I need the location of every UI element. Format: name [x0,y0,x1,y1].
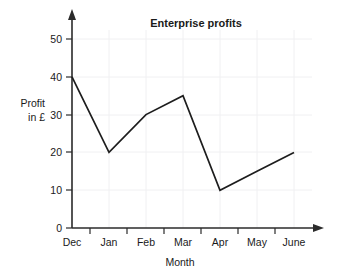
x-axis [72,224,324,232]
x-tick-label-mar: Mar [174,236,193,248]
y-axis [68,9,76,228]
x-axis-arrow-icon [313,224,324,232]
x-tick-label-may: May [247,236,268,248]
x-tick-label-feb: Feb [137,236,155,248]
x-tick-label-dec: Dec [63,236,82,248]
x-tick-label-june: June [283,236,306,248]
y-axis-title: Profit in £ [20,97,45,123]
x-axis-ticks [90,228,275,234]
x-tick-label-jan: Jan [101,236,118,248]
y-axis-arrow-icon [68,9,76,20]
y-axis-title-line1: Profit [20,97,45,109]
y-axis-tick-labels: 0 10 20 30 40 50 [50,33,62,234]
y-axis-ticks [66,39,72,228]
y-tick-label-0: 0 [56,222,62,234]
y-tick-label-20: 20 [50,146,62,158]
chart-title: Enterprise profits [150,17,242,29]
chart-canvas: Enterprise profits 0 10 20 30 40 50 [0,0,337,273]
y-axis-title-line2: in £ [28,111,45,123]
y-tick-label-30: 30 [50,109,62,121]
y-tick-label-40: 40 [50,71,62,83]
line-chart: Enterprise profits 0 10 20 30 40 50 [0,0,337,273]
y-tick-label-10: 10 [50,184,62,196]
background-grid [72,30,312,228]
x-tick-label-apr: Apr [212,236,229,248]
x-axis-title: Month [165,256,194,268]
y-tick-label-50: 50 [50,33,62,45]
x-axis-tick-labels: Dec Jan Feb Mar Apr May June [63,236,306,248]
